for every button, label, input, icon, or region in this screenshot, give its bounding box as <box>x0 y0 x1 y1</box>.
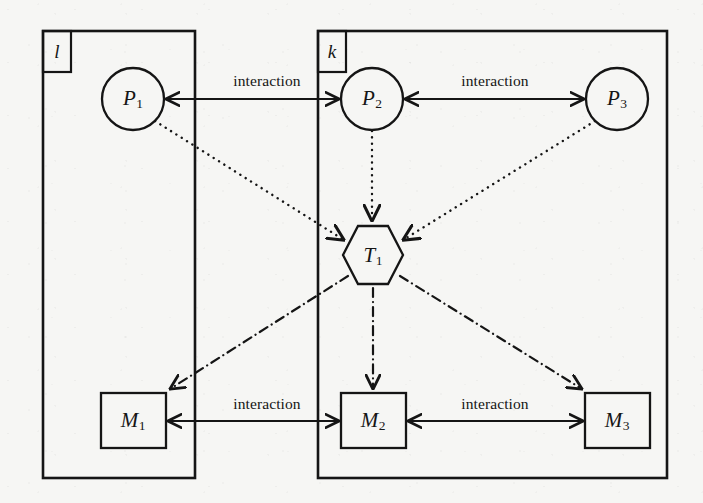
node-m3-shape[interactable] <box>585 393 650 448</box>
node-t1-shape[interactable] <box>343 226 403 284</box>
figure-canvas: l k P1 P2 P3 T1 M1 M2 M3 interaction int… <box>0 0 703 503</box>
edge-t1-m3 <box>400 276 582 389</box>
node-m2-shape[interactable] <box>341 393 406 448</box>
node-p2-shape[interactable] <box>341 68 403 130</box>
node-m1-shape[interactable] <box>101 393 166 448</box>
edge-p3-t1 <box>403 121 595 240</box>
diagram-vector-layer <box>0 0 703 503</box>
container-k-tab <box>318 31 346 72</box>
edge-p1-t1 <box>155 121 344 240</box>
edge-t1-m1 <box>170 276 348 389</box>
node-p1-shape[interactable] <box>102 68 164 130</box>
nodes-layer <box>101 68 650 448</box>
container-l-tab <box>43 31 71 72</box>
node-p3-shape[interactable] <box>586 68 648 130</box>
